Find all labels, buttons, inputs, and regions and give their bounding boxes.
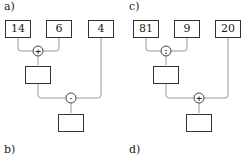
plus-operator-icon: +: [33, 46, 43, 56]
divide-operator-icon: :: [161, 46, 171, 56]
multiply-operator-icon: ·: [66, 93, 76, 103]
panel-b-label: b): [4, 144, 15, 156]
input-box-a-1: 14: [5, 20, 31, 38]
answer-box-a-mid[interactable]: [25, 66, 51, 84]
panel-a-label: a): [4, 1, 15, 13]
input-box-c-2: 9: [174, 20, 200, 38]
answer-box-a-final[interactable]: [58, 114, 84, 132]
input-box-c-1: 81: [133, 20, 159, 38]
answer-box-c-mid[interactable]: [153, 66, 179, 84]
input-box-c-3: 20: [215, 20, 241, 38]
panel-c-label: c): [129, 1, 139, 13]
answer-box-c-final[interactable]: [186, 114, 212, 132]
plus-operator-icon: +: [194, 93, 204, 103]
panel-d-label: d): [129, 144, 140, 156]
input-box-a-2: 6: [46, 20, 72, 38]
input-box-a-3: 4: [88, 20, 114, 38]
